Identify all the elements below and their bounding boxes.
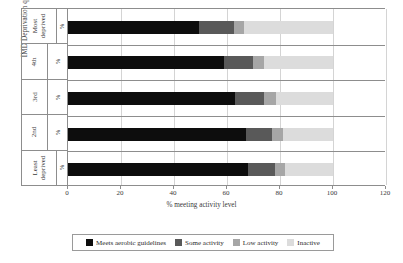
bar-segment[interactable] <box>224 56 253 69</box>
category-axis: Most deprived%4th%3rd%2nd%Least deprived… <box>21 8 67 186</box>
category-label-1: Most deprived <box>22 9 57 43</box>
bar-segment[interactable] <box>68 21 199 34</box>
legend-swatch-icon <box>86 239 93 246</box>
x-tick-label: 100 <box>327 189 338 197</box>
row-separator <box>68 151 385 152</box>
bar-row[interactable] <box>68 92 385 105</box>
bar-row[interactable] <box>68 128 385 141</box>
bar-segment[interactable] <box>253 56 264 69</box>
bar-segment[interactable] <box>264 56 333 69</box>
category-label-4: 2nd <box>22 115 48 149</box>
bar-row[interactable] <box>68 21 385 34</box>
bar-segment[interactable] <box>68 128 246 141</box>
category-sublabel-4: % <box>48 115 67 149</box>
bar-row[interactable] <box>68 56 385 69</box>
category-label-2: 4th <box>22 44 48 78</box>
chart-legend: Meets aerobic guidelinesSome activityLow… <box>72 234 334 251</box>
gridline-120 <box>386 9 387 185</box>
legend-label: Inactive <box>297 239 320 247</box>
legend-label: Low activity <box>243 239 279 247</box>
bar-segment[interactable] <box>272 128 283 141</box>
legend-item[interactable]: Some activity <box>175 239 224 247</box>
category-sublabel-text: % <box>59 165 66 171</box>
bar-segment[interactable] <box>68 163 248 176</box>
x-tick-label: 20 <box>117 189 124 197</box>
category-sublabel-5: % <box>57 151 67 185</box>
category-label-3: 3rd <box>22 80 48 114</box>
category-label-text: 3rd <box>31 92 39 101</box>
category-axis-cell: 2nd% <box>22 115 67 150</box>
category-sublabel-3: % <box>48 80 67 114</box>
category-axis-cell: 3rd% <box>22 80 67 115</box>
category-sublabel-text: % <box>54 94 61 100</box>
category-label-text: Most deprived <box>31 9 47 43</box>
category-axis-cell: Least deprived% <box>22 151 67 185</box>
legend-label: Some activity <box>185 239 224 247</box>
category-axis-cell: 4th% <box>22 44 67 79</box>
legend-swatch-icon <box>233 239 240 246</box>
x-tick-label: 80 <box>276 189 283 197</box>
x-tick-label: 40 <box>170 189 177 197</box>
bar-segment[interactable] <box>246 128 273 141</box>
category-sublabel-text: % <box>54 59 61 65</box>
bar-segment[interactable] <box>234 21 245 34</box>
row-separator <box>68 116 385 117</box>
category-sublabel-text: % <box>59 23 66 29</box>
category-label-text: 4th <box>30 57 38 66</box>
legend-swatch-icon <box>287 239 294 246</box>
legend-item[interactable]: Meets aerobic guidelines <box>86 239 166 247</box>
bar-segment[interactable] <box>68 56 224 69</box>
bar-segment[interactable] <box>244 21 333 34</box>
category-label-text: 2nd <box>31 127 39 138</box>
legend-label: Meets aerobic guidelines <box>96 239 166 247</box>
bar-segment[interactable] <box>283 128 333 141</box>
legend-swatch-icon <box>175 239 182 246</box>
stacked-bar-chart-figure: IMD Deprivation quintile Most deprived%4… <box>0 0 403 263</box>
bar-segment[interactable] <box>264 92 276 105</box>
legend-item[interactable]: Inactive <box>287 239 320 247</box>
category-label-text: Least deprived <box>31 151 47 185</box>
bar-segment[interactable] <box>199 21 233 34</box>
bar-segment[interactable] <box>235 92 264 105</box>
category-sublabel-2: % <box>48 44 67 78</box>
bar-segment[interactable] <box>275 163 286 176</box>
category-axis-cell: Most deprived% <box>22 9 67 44</box>
x-tick-label: 60 <box>223 189 230 197</box>
x-axis-title: % meeting activity level <box>0 201 403 209</box>
bar-segment[interactable] <box>68 92 235 105</box>
plot-area <box>67 8 385 186</box>
row-separator <box>68 45 385 46</box>
bar-segment[interactable] <box>285 163 333 176</box>
bar-segment[interactable] <box>248 163 275 176</box>
x-tick-label: 0 <box>65 189 69 197</box>
category-label-5: Least deprived <box>22 151 57 185</box>
bar-segment[interactable] <box>276 92 333 105</box>
category-sublabel-1: % <box>57 9 67 43</box>
category-sublabel-text: % <box>54 130 61 136</box>
x-tick-label: 120 <box>380 189 391 197</box>
row-separator <box>68 80 385 81</box>
bar-row[interactable] <box>68 163 385 176</box>
legend-item[interactable]: Low activity <box>233 239 279 247</box>
